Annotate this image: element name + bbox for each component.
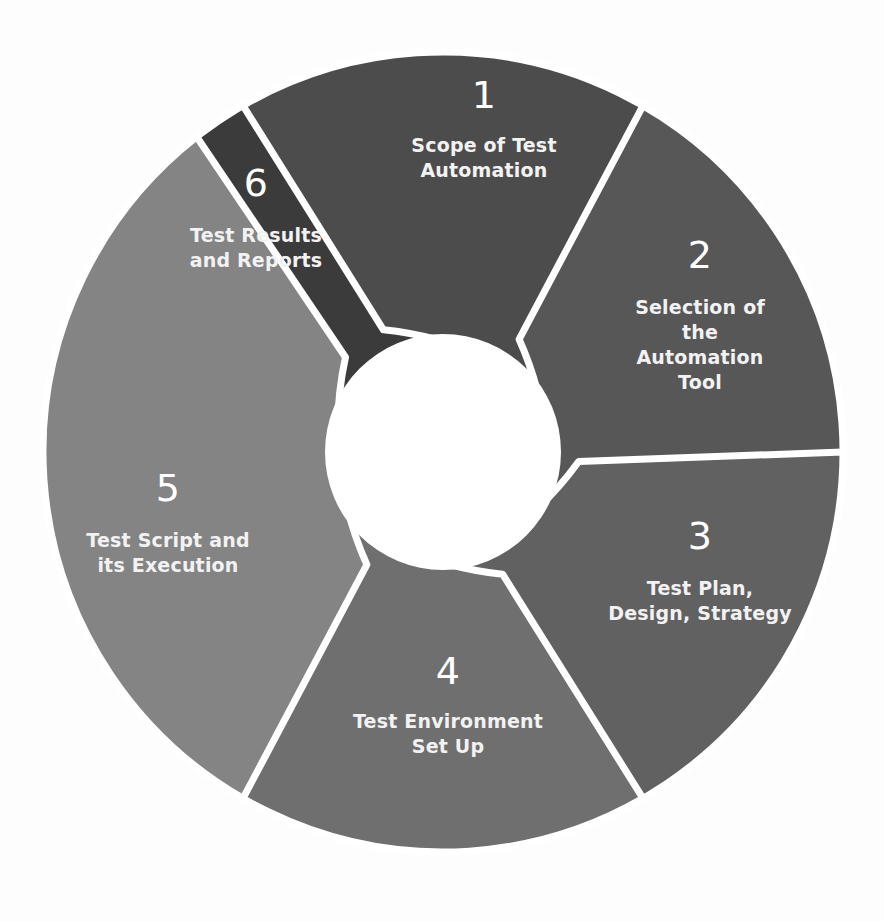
segment-5-number: 5 (156, 466, 181, 510)
segment-6-number: 6 (244, 161, 269, 205)
segment-1-label-line-1: Scope of Test (411, 134, 556, 156)
segment-2-number: 2 (688, 233, 713, 277)
segment-5-label-line-1: Test Script and (86, 529, 249, 551)
segment-2-label-line-3: Automation (636, 346, 763, 368)
cycle-svg: 1 Scope of Test Automation 2 Selection o… (0, 0, 884, 921)
segment-1-label-line-2: Automation (420, 159, 547, 181)
segment-4-number: 4 (436, 649, 461, 693)
segment-6-label-line-1: Test Results (190, 224, 322, 246)
segment-4-label-line-2: Set Up (412, 735, 485, 757)
segment-1-number: 1 (472, 73, 497, 117)
segment-2-label-line-2: the (682, 321, 718, 343)
test-automation-cycle-diagram: 1 Scope of Test Automation 2 Selection o… (0, 0, 884, 921)
segment-2-label-line-1: Selection of (635, 296, 765, 318)
segment-3-label-line-1: Test Plan, (647, 577, 753, 599)
segment-6-label-line-2: and Reports (190, 249, 323, 271)
segment-4-label-line-1: Test Environment (353, 710, 543, 732)
segment-2-label-line-4: Tool (678, 371, 722, 393)
segment-3-number: 3 (688, 514, 713, 558)
segment-5-label-line-2: its Execution (97, 554, 238, 576)
segment-3-label-line-2: Design, Strategy (608, 602, 792, 624)
center-hole (325, 334, 561, 570)
